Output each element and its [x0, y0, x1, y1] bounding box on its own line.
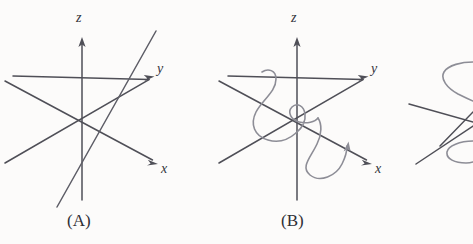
panel-b-group	[219, 37, 372, 200]
panel-b-spiral-curve-right	[306, 118, 347, 178]
panel-b-y-axis-label: y	[371, 62, 377, 76]
panel-b-caption: (B)	[281, 212, 304, 229]
panel-a-caption: (A)	[67, 212, 91, 229]
panel-c-group	[409, 62, 473, 164]
panel-b-spiral-curve-center	[290, 105, 318, 133]
panel-c-partial-line-upper	[409, 104, 473, 122]
panel-a-group	[5, 31, 158, 207]
panel-a-z-axis-label: z	[76, 11, 81, 25]
figure-canvas	[0, 0, 473, 244]
panel-c-partial-curve-lower	[447, 141, 473, 163]
panel-a-solution-line	[57, 31, 156, 207]
panel-b-y-axis	[228, 76, 363, 80]
figure-root: z y x (A) z y x (B)	[0, 0, 473, 244]
panel-b-x-axis-label: x	[375, 162, 381, 176]
panel-a-y-axis-label: y	[157, 62, 163, 76]
panel-c-partial-curve-upper	[443, 62, 473, 101]
panel-c-partial-line-lower	[416, 126, 473, 164]
panel-b-z-axis-label: z	[291, 11, 296, 25]
panel-a-x-axis-label: x	[161, 162, 167, 176]
